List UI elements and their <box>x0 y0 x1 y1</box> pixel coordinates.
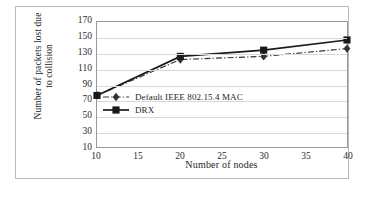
data-point-square <box>93 92 100 99</box>
figure-root: Number of packets lost due to collision … <box>0 0 365 198</box>
gridline <box>97 54 347 55</box>
gridline <box>97 70 347 71</box>
figure-frame: Number of packets lost due to collision … <box>15 6 349 179</box>
y-tick-label: 90 <box>68 80 92 90</box>
chart-legend: Default IEEE 802.15.4 MACDRX <box>101 90 243 116</box>
gridline <box>97 38 347 39</box>
series-line-drx <box>97 40 347 95</box>
y-axis-title-text: Number of packets lost due to collision <box>33 12 54 119</box>
data-point-square <box>260 47 267 54</box>
y-tick-label: 130 <box>68 48 92 58</box>
legend-label: DRX <box>135 104 154 116</box>
series-svg <box>97 22 347 147</box>
y-axis-title: Number of packets lost due to collision <box>33 0 55 146</box>
data-point-diamond <box>113 92 120 100</box>
y-tick-label: 110 <box>68 64 92 74</box>
legend-swatch-icon <box>101 91 131 103</box>
y-axis-tick-labels: 1030507090110130150170 <box>68 21 92 148</box>
gridline <box>97 117 347 118</box>
plot-area <box>96 21 348 148</box>
y-tick-label: 170 <box>68 16 92 26</box>
data-point-diamond <box>344 44 351 52</box>
x-axis-title: Number of nodes <box>94 159 349 170</box>
legend-entry: DRX <box>101 103 243 116</box>
x-axis-title-text: Number of nodes <box>185 159 257 170</box>
gridline <box>97 133 347 134</box>
y-tick-label: 50 <box>68 111 92 121</box>
y-tick-label: 150 <box>68 32 92 42</box>
legend-swatch-icon <box>101 104 131 116</box>
gridline <box>97 86 347 87</box>
legend-entry: Default IEEE 802.15.4 MAC <box>101 90 243 103</box>
series-line-default <box>97 49 347 96</box>
legend-label: Default IEEE 802.15.4 MAC <box>135 91 243 103</box>
data-point-square <box>112 106 119 113</box>
y-tick-label: 30 <box>68 127 92 137</box>
y-tick-label: 70 <box>68 95 92 105</box>
